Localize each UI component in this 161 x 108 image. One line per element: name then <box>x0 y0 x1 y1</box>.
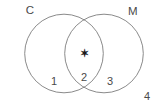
set-label-m: M <box>128 6 138 18</box>
region-label-intersection: 2 <box>81 72 87 83</box>
region-label-m-only: 3 <box>107 76 113 87</box>
star-marker-icon: ✶ <box>80 48 89 59</box>
set-label-c: C <box>26 5 35 17</box>
region-label-c-only: 1 <box>51 76 57 87</box>
region-label-outside: 4 <box>144 91 150 102</box>
set-circle-c <box>25 14 104 93</box>
set-circle-m <box>65 14 144 93</box>
venn-diagram-figure: C M 1 2 3 4 ✶ <box>0 0 161 108</box>
